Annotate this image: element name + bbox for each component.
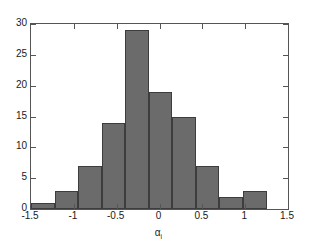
- y-tick-mark: [31, 24, 36, 25]
- x-tick-mark: [245, 204, 246, 209]
- plot-area: [30, 23, 289, 210]
- histogram-bar: [219, 197, 243, 209]
- x-tick-mark-top: [202, 24, 203, 29]
- y-tick-mark-right: [283, 178, 288, 179]
- y-tick-mark-right: [283, 147, 288, 148]
- y-tick-label: 10: [16, 141, 27, 151]
- y-tick-mark-right: [283, 24, 288, 25]
- x-axis-tick-labels: -1.5-1-0.500.511.5: [30, 211, 287, 225]
- x-axis-title-subscript: i: [161, 233, 163, 240]
- histogram-bar: [196, 166, 220, 209]
- histogram-figure: 051015202530 -1.5-1-0.500.511.5 αi: [0, 0, 310, 247]
- y-tick-mark: [31, 147, 36, 148]
- x-tick-label: -0.5: [107, 211, 124, 221]
- y-tick-mark: [31, 178, 36, 179]
- x-axis-title: αi: [30, 228, 287, 240]
- y-tick-label: 5: [21, 172, 27, 182]
- x-tick-label: 1.5: [280, 211, 294, 221]
- y-tick-mark: [31, 55, 36, 56]
- x-tick-label: 1: [241, 211, 247, 221]
- y-tick-mark: [31, 86, 36, 87]
- x-tick-label: 0: [156, 211, 162, 221]
- x-tick-label: -1: [68, 211, 77, 221]
- y-tick-mark-right: [283, 117, 288, 118]
- x-tick-label: 0.5: [194, 211, 208, 221]
- y-tick-label: 25: [16, 49, 27, 59]
- x-tick-label: -1.5: [21, 211, 38, 221]
- y-tick-label: 30: [16, 18, 27, 28]
- y-tick-label: 20: [16, 80, 27, 90]
- y-axis-tick-labels: 051015202530: [0, 23, 27, 208]
- histogram-bars: [31, 24, 288, 209]
- x-tick-mark-top: [117, 24, 118, 29]
- histogram-bar: [172, 117, 196, 210]
- x-tick-mark: [117, 204, 118, 209]
- y-tick-mark: [31, 117, 36, 118]
- x-tick-mark-top: [160, 24, 161, 29]
- histogram-bar: [125, 30, 149, 209]
- x-tick-mark: [74, 204, 75, 209]
- x-tick-mark: [160, 204, 161, 209]
- x-tick-mark: [202, 204, 203, 209]
- histogram-bar: [102, 123, 126, 209]
- histogram-bar: [31, 203, 55, 209]
- y-tick-mark-right: [283, 86, 288, 87]
- x-tick-mark-top: [245, 24, 246, 29]
- y-tick-label: 15: [16, 111, 27, 121]
- x-tick-mark-top: [74, 24, 75, 29]
- histogram-bar: [149, 92, 173, 209]
- histogram-bar: [243, 191, 267, 210]
- histogram-bar: [78, 166, 102, 209]
- y-tick-mark-right: [283, 55, 288, 56]
